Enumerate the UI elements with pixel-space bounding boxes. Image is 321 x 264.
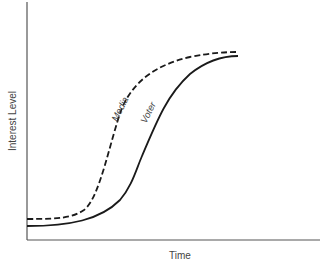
voter-label: Voter	[138, 99, 158, 125]
media-curve	[27, 52, 238, 219]
y-axis-label: Interest Level	[7, 91, 18, 151]
media-label: Media	[109, 95, 131, 123]
interest-level-chart: Media Voter Interest Level Time	[0, 0, 321, 264]
voter-curve	[27, 56, 238, 226]
x-axis-label: Time	[169, 250, 191, 261]
